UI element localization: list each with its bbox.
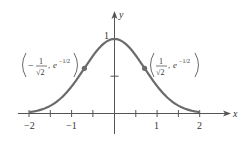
x-tick-label-neg2: −2 [24, 120, 35, 131]
svg-text:√2: √2 [36, 68, 44, 77]
svg-text:−1/2: −1/2 [59, 58, 70, 64]
left-inflection-point [82, 66, 87, 71]
svg-text:−: − [28, 60, 34, 71]
svg-text:−1/2: −1/2 [179, 58, 190, 64]
svg-text:,: , [48, 61, 50, 70]
svg-text:,: , [168, 61, 170, 70]
svg-text:e: e [173, 60, 177, 70]
svg-text:e: e [53, 60, 57, 70]
right-inflection-point [142, 66, 147, 71]
x-tick-label-1: 1 [154, 120, 159, 131]
x-tick-label-2: 2 [197, 120, 202, 131]
svg-text:1: 1 [39, 57, 43, 66]
x-axis-label: x [232, 108, 238, 119]
svg-text:√2: √2 [156, 68, 164, 77]
svg-text:1: 1 [159, 57, 163, 66]
y-tick-label-1: 1 [104, 30, 109, 41]
left-point-annotation: − 1 √2 , e −1/2 [23, 53, 78, 77]
x-tick-label-neg1: −1 [66, 120, 77, 131]
right-point-annotation: 1 √2 , e −1/2 [151, 53, 199, 77]
gaussian-chart: x y −2 −1 1 2 1 − 1 √2 , e −1/2 [0, 0, 247, 142]
y-axis-label: y [118, 9, 124, 20]
